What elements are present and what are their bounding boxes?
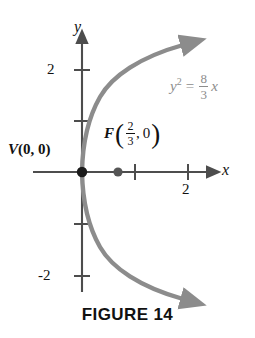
equation-lhs-exponent: 2 [177, 77, 182, 87]
equation-fraction-numerator: 8 [199, 72, 208, 85]
equation-equals: = [186, 79, 194, 94]
parabola-plot [0, 0, 255, 338]
focus-fraction-numerator: 2 [127, 120, 135, 132]
vertex-point [77, 167, 87, 177]
vertex-label: V(0, 0) [8, 142, 51, 157]
focus-label-fraction: 23 [126, 120, 135, 147]
y-tick-label-neg2: -2 [38, 268, 51, 283]
x-tick-label-2: 2 [182, 182, 190, 197]
equation-label: y2=83x [170, 72, 218, 102]
focus-label-name: F [104, 126, 114, 141]
focus-fraction-denominator: 3 [127, 135, 135, 147]
y-axis-label: y [74, 19, 81, 35]
figure-caption: FIGURE 14 [0, 305, 255, 325]
focus-label-comma: , [136, 126, 140, 141]
x-axis-label: x [222, 162, 229, 178]
vertex-label-close-paren: ) [46, 141, 51, 157]
focus-point [113, 167, 122, 176]
equation-rhs-variable: x [211, 79, 218, 94]
focus-label: F(23,0) [104, 120, 161, 147]
y-tick-label-2: 2 [47, 62, 55, 77]
equation-lhs-variable: y [170, 79, 177, 94]
vertex-label-name: V [8, 141, 18, 157]
equation-fraction-denominator: 3 [199, 88, 208, 101]
vertex-label-x: 0 [23, 141, 31, 157]
equation-coefficient-fraction: 83 [199, 72, 208, 102]
focus-label-y: 0 [143, 126, 151, 141]
vertex-label-y: 0 [38, 141, 46, 157]
parabola-lower-branch [82, 172, 183, 299]
vertex-label-comma: , [31, 141, 39, 157]
focus-label-close-paren: ) [151, 123, 160, 145]
focus-label-open-paren: ( [115, 123, 124, 145]
parabola-upper-branch [82, 45, 183, 172]
figure-container: y x 2 -2 2 V(0, 0) F(23,0) y2=83x FIGURE… [0, 0, 255, 338]
